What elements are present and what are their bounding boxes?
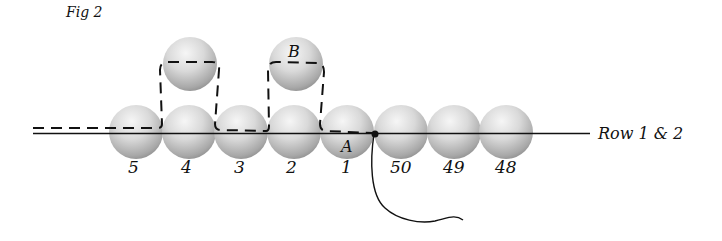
- bead-label-50: 50: [390, 157, 412, 177]
- bead-2: [267, 105, 321, 159]
- point-label-a: A: [339, 137, 353, 156]
- bead-label-5: 5: [128, 157, 139, 177]
- bead-row: [109, 105, 533, 159]
- knot-dot: [372, 131, 379, 138]
- bead-3: [214, 105, 268, 159]
- bead-label-3: 3: [234, 157, 245, 177]
- bead-5: [109, 105, 163, 159]
- bead-4: [162, 105, 216, 159]
- bead-49: [427, 105, 481, 159]
- bead-48: [479, 105, 533, 159]
- row-label: Row 1 & 2: [597, 124, 683, 143]
- bead-50: [374, 105, 428, 159]
- bead-label-48: 48: [494, 157, 517, 177]
- bead-top-above-4: [163, 37, 217, 91]
- bead-label-49: 49: [442, 157, 465, 177]
- bead-label-2: 2: [285, 157, 297, 177]
- point-label-b: B: [287, 42, 300, 61]
- bead-label-1: 1: [341, 157, 352, 177]
- figure-title: Fig 2: [65, 4, 103, 20]
- bead-stitch-diagram: Fig 2 5 4 3 2 1 50 49 48 A B Row 1 & 2: [0, 0, 722, 241]
- bead-label-4: 4: [180, 157, 192, 177]
